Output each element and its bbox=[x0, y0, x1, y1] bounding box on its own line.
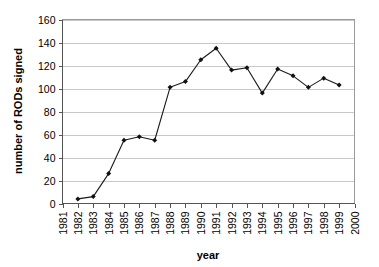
y-tick-label: 0 bbox=[50, 198, 56, 210]
x-tick-label: 1998 bbox=[318, 211, 330, 235]
x-tick-label: 1986 bbox=[133, 211, 145, 235]
x-tick-label: 1992 bbox=[226, 211, 238, 235]
y-tick-label: 160 bbox=[38, 14, 56, 26]
x-axis-title: year bbox=[197, 249, 220, 261]
chart-container: 020406080100120140160 198119821983198419… bbox=[0, 0, 379, 267]
x-tick-label: 1997 bbox=[302, 211, 314, 235]
x-axis-ticks bbox=[64, 204, 356, 208]
y-tick-label: 60 bbox=[44, 129, 56, 141]
y-tick-label: 20 bbox=[44, 175, 56, 187]
y-axis-tick-labels: 020406080100120140160 bbox=[38, 14, 56, 210]
y-tick-label: 140 bbox=[38, 37, 56, 49]
data-point-marker bbox=[75, 196, 80, 201]
x-tick-label: 1999 bbox=[333, 211, 345, 235]
y-tick-label: 80 bbox=[44, 106, 56, 118]
x-tick-label: 2000 bbox=[349, 211, 361, 235]
gridlines bbox=[63, 21, 355, 182]
x-tick-label: 1993 bbox=[241, 211, 253, 235]
x-tick-label: 1984 bbox=[103, 211, 115, 235]
y-tick-label: 120 bbox=[38, 60, 56, 72]
x-tick-label: 1985 bbox=[118, 211, 130, 235]
x-tick-label: 1988 bbox=[164, 211, 176, 235]
x-tick-label: 1991 bbox=[210, 211, 222, 235]
x-tick-label: 1989 bbox=[179, 211, 191, 235]
x-tick-label: 1983 bbox=[87, 211, 99, 235]
y-axis-ticks bbox=[59, 21, 63, 205]
series-line-rods-signed bbox=[78, 48, 339, 199]
x-axis-tick-labels: 1981198219831984198519861987198819891990… bbox=[57, 211, 361, 235]
x-tick-label: 1995 bbox=[272, 211, 284, 235]
data-point-marker bbox=[337, 83, 342, 88]
y-tick-label: 100 bbox=[38, 83, 56, 95]
data-point-marker bbox=[152, 138, 157, 143]
x-tick-label: 1996 bbox=[287, 211, 299, 235]
series-markers bbox=[75, 46, 341, 202]
data-point-marker bbox=[121, 138, 126, 143]
data-point-marker bbox=[321, 76, 326, 81]
x-tick-label: 1987 bbox=[149, 211, 161, 235]
x-tick-label: 1982 bbox=[72, 211, 84, 235]
y-axis-title: number of RODs signed bbox=[12, 48, 24, 174]
y-tick-label: 40 bbox=[44, 152, 56, 164]
x-tick-label: 1994 bbox=[256, 211, 268, 235]
x-tick-label: 1981 bbox=[57, 211, 69, 235]
line-chart: 020406080100120140160 198119821983198419… bbox=[0, 0, 379, 267]
plot-frame bbox=[63, 20, 355, 204]
x-tick-label: 1990 bbox=[195, 211, 207, 235]
